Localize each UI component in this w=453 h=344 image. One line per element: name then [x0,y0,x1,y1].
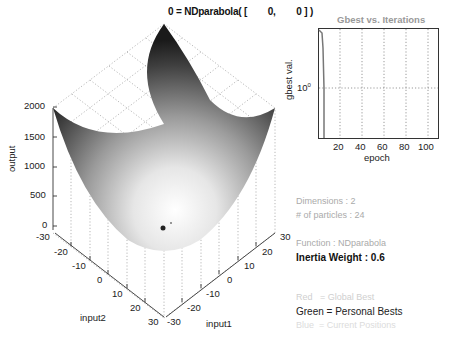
legend-green: Green = Personal Bests [296,306,402,317]
input1-tick: 20 [262,246,273,257]
input2-tick: -30 [36,231,50,242]
input1-axis-label: input1 [206,318,232,329]
gbest-plot[interactable] [318,28,440,140]
gbest-y-tick: 100 [297,82,311,93]
z-tick-1000: 1000 [24,160,45,171]
input2-tick: 20 [130,302,141,313]
input2-tick: 30 [148,316,159,327]
gbest-plot-title: Gbest vs. Iterations [337,14,425,25]
gbest-y-label: gbest val. [283,59,294,100]
z-tick-500: 500 [30,189,46,200]
gbest-x-tick: 60 [377,141,388,152]
input2-tick: 10 [112,288,123,299]
input1-tick: 0 [227,274,232,285]
gbest-x-tick: 20 [333,141,344,152]
z-tick-0: 0 [42,219,47,230]
input1-tick: -30 [167,316,181,327]
input2-tick: -20 [54,246,68,257]
input2-tick: 0 [97,274,102,285]
input1-tick: -20 [187,302,201,313]
legend-blue: Blue = Current Positions [296,320,396,330]
particle-marker [161,226,166,231]
input1-tick: 30 [280,231,291,242]
function-text: Function : NDparabola [296,238,386,248]
parabola-surface [53,24,275,251]
gbest-x-label: epoch [364,152,390,163]
input1-tick: -10 [206,288,220,299]
gbest-x-tick: 80 [399,141,410,152]
surface-plot[interactable] [0,0,300,344]
z-tick-1500: 1500 [24,131,45,142]
particles-text: # of particles : 24 [296,210,365,220]
z-tick-2000: 2000 [24,100,45,111]
gbest-x-tick: 40 [355,141,366,152]
input2-tick: -10 [72,260,86,271]
dimensions-text: Dimensions : 2 [296,196,356,206]
gbest-x-tick: 100 [418,141,434,152]
legend-red: Red = Global Best [296,292,374,302]
input1-tick: 10 [244,260,255,271]
z-axis-label: output [6,146,17,172]
inertia-weight-text: Inertia Weight : 0.6 [296,252,385,263]
input2-axis-label: input2 [80,312,106,323]
